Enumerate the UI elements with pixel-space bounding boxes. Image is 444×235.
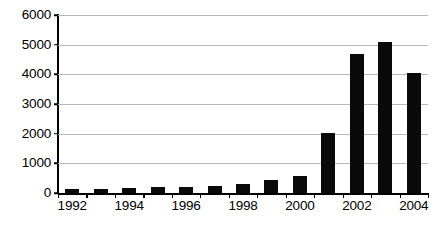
x-tick-mark-7 (257, 193, 258, 198)
bar-1999 (264, 180, 278, 193)
bar-1998 (236, 184, 250, 193)
y-tick-mark-4000 (54, 74, 58, 76)
x-tick-label-1992: 1992 (58, 199, 87, 213)
y-tick-mark-6000 (54, 14, 58, 16)
x-tick-mark-3 (143, 193, 144, 198)
y-tick-label-0: 0 (0, 186, 51, 200)
y-tick-label-5000: 5000 (0, 38, 51, 52)
x-tick-mark-9 (314, 193, 315, 198)
gridline-3000 (58, 104, 428, 105)
gridline-5000 (58, 45, 428, 46)
y-tick-label-2000: 2000 (0, 127, 51, 141)
bar-2001 (321, 133, 335, 193)
y-tick-label-4000: 4000 (0, 68, 51, 82)
bar-chart: 0100020003000400050006000 19921994199619… (0, 0, 444, 235)
bar-2000 (293, 176, 307, 193)
y-tick-mark-3000 (54, 103, 58, 105)
x-tick-label-1996: 1996 (171, 199, 200, 213)
bar-2002 (350, 54, 364, 193)
x-tick-mark-5 (200, 193, 201, 198)
gridline-4000 (58, 74, 428, 75)
gridline-2000 (58, 134, 428, 135)
bar-1997 (208, 186, 222, 193)
plot-area (58, 15, 428, 193)
y-tick-mark-5000 (54, 44, 58, 46)
y-tick-label-3000: 3000 (0, 97, 51, 111)
x-tick-label-2000: 2000 (285, 199, 314, 213)
y-tick-label-6000: 6000 (0, 8, 51, 22)
bar-2003 (378, 42, 392, 193)
x-axis-label-group: 1992199419961998200020022004 (58, 199, 428, 223)
y-tick-mark-2000 (54, 133, 58, 135)
gridline-6000 (58, 15, 428, 16)
x-tick-label-1998: 1998 (228, 199, 257, 213)
x-tick-mark-13 (428, 193, 429, 198)
x-tick-label-2002: 2002 (342, 199, 371, 213)
x-tick-mark-1 (86, 193, 87, 198)
y-tick-mark-1000 (54, 163, 58, 165)
bar-2004 (407, 73, 421, 193)
x-tick-label-2004: 2004 (399, 199, 428, 213)
y-tick-label-1000: 1000 (0, 157, 51, 171)
x-tick-mark-11 (371, 193, 372, 198)
gridline-1000 (58, 163, 428, 164)
x-tick-label-1994: 1994 (115, 199, 144, 213)
y-axis-label-group: 0100020003000400050006000 (0, 0, 51, 235)
